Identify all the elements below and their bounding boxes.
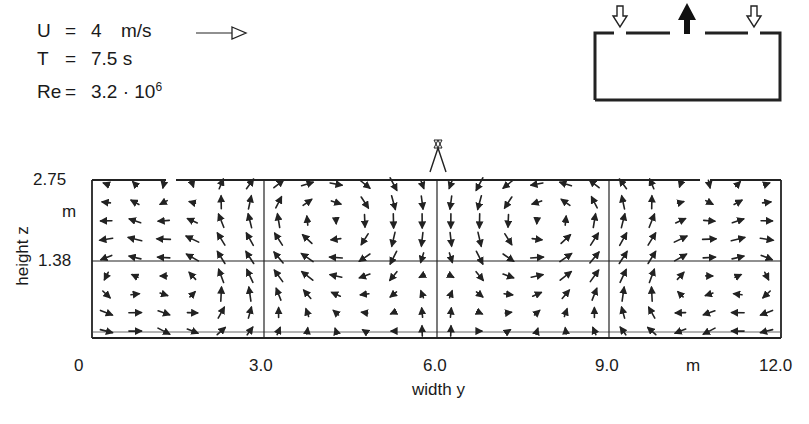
x-tick-3: 3.0	[249, 356, 273, 376]
outlet-marker-icon	[430, 140, 446, 172]
x-tick-0: 0	[74, 356, 83, 376]
flow-direction-arrow-icon	[196, 27, 246, 39]
y-tick-2-75: 2.75	[33, 170, 66, 190]
x-tick-6: 6.0	[423, 356, 447, 376]
room-schematic	[595, 3, 780, 100]
x-tick-unit: m	[686, 356, 700, 376]
y-tick-unit: m	[62, 202, 76, 222]
outflow-arrow-icon	[678, 3, 696, 34]
x-tick-9: 9.0	[595, 356, 619, 376]
y-tick-1-38: 1.38	[38, 251, 71, 271]
x-axis-label: width y	[412, 380, 465, 400]
inflow-arrow-icon	[613, 6, 627, 27]
x-tick-12: 12.0	[759, 356, 792, 376]
inflow-arrow-icon	[747, 6, 761, 27]
y-axis-label: height z	[13, 221, 33, 291]
